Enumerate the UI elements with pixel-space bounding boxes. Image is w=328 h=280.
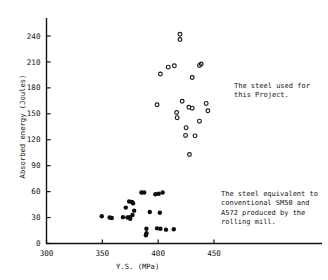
data-point-open xyxy=(159,72,163,76)
data-point-filled xyxy=(124,205,128,209)
data-point-open xyxy=(178,32,182,36)
data-point-open xyxy=(166,65,170,69)
y-tick-label: 210 xyxy=(27,58,41,67)
data-point-filled xyxy=(160,190,164,194)
data-point-filled xyxy=(128,217,132,221)
data-point-open xyxy=(184,134,188,138)
scatter-chart: 0306090120150180210240 300350400450 xyxy=(0,0,328,280)
data-point-open xyxy=(190,106,194,110)
y-tick-label: 150 xyxy=(27,109,41,118)
y-tick-label: 30 xyxy=(31,213,41,222)
data-point-filled xyxy=(121,215,125,219)
data-point-open xyxy=(206,109,210,113)
y-tick-label: 180 xyxy=(27,83,41,92)
data-point-open xyxy=(155,103,159,107)
x-axis-ticks: 300350400450 xyxy=(40,240,222,258)
annotation-upper-cluster: The steel used for this Project. xyxy=(234,82,328,101)
data-point-open xyxy=(184,126,188,130)
data-point-filled xyxy=(172,227,176,231)
data-point-filled xyxy=(132,208,136,212)
data-point-filled xyxy=(100,214,104,218)
series-filled-circles xyxy=(100,190,176,237)
y-tick-label: 60 xyxy=(31,187,41,196)
data-point-filled xyxy=(144,233,148,237)
y-tick-label: 120 xyxy=(27,135,41,144)
data-point-open xyxy=(190,76,194,80)
y-axis-label: Absorbed energy (Joules) xyxy=(18,57,27,197)
y-tick-label: 90 xyxy=(31,161,41,170)
x-tick-label: 400 xyxy=(151,249,165,258)
data-point-filled xyxy=(158,227,162,231)
data-point-open xyxy=(193,134,197,138)
data-point-open xyxy=(204,102,208,106)
annotation-lower-cluster: The steel equivalent to conventional SM5… xyxy=(221,190,328,228)
data-point-filled xyxy=(142,190,146,194)
data-point-open xyxy=(180,99,184,103)
data-point-filled xyxy=(148,210,152,214)
data-point-open xyxy=(175,111,179,115)
x-tick-label: 350 xyxy=(95,249,109,258)
series-open-circles xyxy=(155,32,210,156)
y-tick-label: 0 xyxy=(36,239,41,248)
data-point-filled xyxy=(144,227,148,231)
data-point-filled xyxy=(110,216,114,220)
data-point-filled xyxy=(131,201,135,205)
data-point-filled xyxy=(158,211,162,215)
data-point-open xyxy=(175,116,179,120)
data-point-open xyxy=(178,38,182,42)
data-point-filled xyxy=(164,227,168,231)
x-tick-label: 450 xyxy=(207,249,221,258)
x-axis-label: Y.S. (MPa) xyxy=(116,262,159,271)
y-tick-label: 240 xyxy=(27,32,41,41)
data-point-filled xyxy=(157,192,161,196)
data-point-open xyxy=(188,153,192,157)
data-point-open xyxy=(172,64,176,68)
x-tick-label: 300 xyxy=(40,249,54,258)
data-point-filled xyxy=(130,213,134,217)
data-point-open xyxy=(198,119,202,123)
